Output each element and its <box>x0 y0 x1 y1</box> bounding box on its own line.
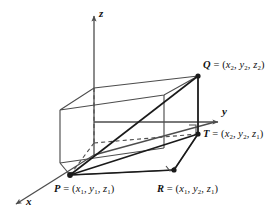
point-label-q-comma-2: , <box>248 59 251 70</box>
point-label-t-y-sub: 2 <box>243 133 247 140</box>
point-label-r-close: ) <box>214 183 218 194</box>
point-label-p-name: P <box>54 183 61 194</box>
point-label-q: Q = (x2, y2, z2) <box>203 60 265 71</box>
y-axis-label: y <box>222 106 227 117</box>
point-label-r-z-sub: 1 <box>211 188 215 195</box>
point-label-p-z-sub: 1 <box>107 188 111 195</box>
point-label-q-x-var: x <box>226 59 231 70</box>
point-label-r-y-var: y <box>193 183 198 194</box>
point-label-q-close: ) <box>261 59 265 70</box>
point-label-r-comma-1: , <box>187 183 190 194</box>
point-label-p-comma-2: , <box>98 183 101 194</box>
point-label-q-name: Q <box>203 59 211 70</box>
point-label-p-eq: = <box>63 183 69 194</box>
vertex-dot-r <box>171 167 176 172</box>
point-label-p-y-sub: 1 <box>94 188 98 195</box>
box-edge-right-front-vertical <box>164 148 174 170</box>
box-group <box>60 76 198 175</box>
point-label-q-y-sub: 2 <box>244 64 248 71</box>
point-label-q-eq: = <box>213 59 219 70</box>
point-label-q-comma-1: , <box>234 59 237 70</box>
point-label-t: T = (x2, y2, z1) <box>203 129 263 140</box>
point-label-q-z-sub: 2 <box>257 64 261 71</box>
point-label-r-eq: = <box>167 183 173 194</box>
point-label-t-eq: = <box>212 128 218 139</box>
point-label-t-comma-1: , <box>233 128 236 139</box>
point-label-r-x-sub: 1 <box>184 188 188 195</box>
point-label-r-comma-2: , <box>201 183 204 194</box>
axes-group <box>16 16 218 204</box>
vertex-dot-q <box>195 73 200 78</box>
point-label-p-x-sub: 1 <box>80 188 84 195</box>
point-label-r-name: R <box>157 183 164 194</box>
point-label-t-close: ) <box>260 128 264 139</box>
distance-box-figure: z y x Q = (x2, y2, z2) T = (x2, y2, z1) … <box>0 0 277 216</box>
point-label-t-x-sub: 2 <box>229 133 233 140</box>
point-label-t-comma-2: , <box>247 128 250 139</box>
point-label-p: P = (x1, y1, z1) <box>54 184 114 195</box>
vertex-dot-p <box>67 172 73 178</box>
point-label-p-comma-1: , <box>84 183 87 194</box>
z-axis-label: z <box>99 8 103 19</box>
point-label-q-x-sub: 2 <box>231 64 235 71</box>
figure-canvas <box>0 0 277 216</box>
x-axis-label: x <box>26 196 32 207</box>
segment-pt <box>70 134 198 175</box>
point-label-r: R = (x1, y2, z1) <box>157 184 218 195</box>
vertex-dot-t <box>195 131 200 136</box>
point-label-t-name: T <box>203 128 210 139</box>
point-label-r-y-sub: 2 <box>198 188 202 195</box>
point-label-t-z-sub: 1 <box>256 133 260 140</box>
y-axis <box>94 122 215 155</box>
segment-rt <box>174 134 198 170</box>
point-label-p-close: ) <box>111 183 115 194</box>
